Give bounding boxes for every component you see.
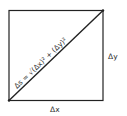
delta-y-label: Δy [108,52,118,61]
corner-dot-top-right [102,9,104,11]
diagram-canvas: Δs = √(Δx)² + (Δy)² Δx Δy [0,0,127,116]
corner-dot-bottom-left [8,99,10,101]
diagonal-label: Δs = √(Δx)² + (Δy)² [12,36,69,91]
diagonal-line [9,11,103,101]
delta-x-label: Δx [50,105,60,114]
